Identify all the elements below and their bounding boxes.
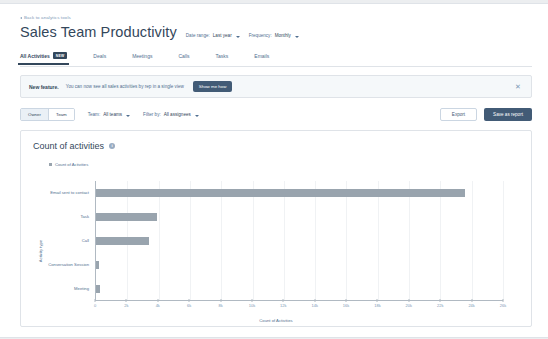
y-tick-label: Conversation Session: [35, 253, 92, 277]
app-page: Back to analytics tools Sales Team Produ…: [0, 3, 548, 338]
x-axis-tick-labels: 02k4k6k8k10k12k14k16k18k20k22k24k26k: [95, 303, 503, 312]
chart-title: Count of activities: [33, 141, 104, 151]
close-icon[interactable]: ✕: [513, 81, 523, 92]
x-axis-line: [95, 300, 503, 301]
x-tick-mark: [95, 299, 96, 302]
bar-row: [96, 229, 503, 253]
chart-legend: Count of Activities: [49, 162, 88, 167]
bar[interactable]: [96, 285, 100, 293]
x-tick-label: 18k: [374, 303, 380, 308]
status-badge: New: [53, 52, 68, 59]
x-tick-label: 12k: [280, 303, 286, 308]
assignee-filter-label: Filter by:: [143, 112, 161, 117]
bar-row: [96, 205, 503, 229]
x-tick-mark: [346, 299, 347, 302]
x-axis-title: Count of Activities: [21, 318, 531, 323]
frequency-value[interactable]: Monthly: [275, 33, 291, 38]
banner-heading: New feature.: [29, 84, 59, 90]
team-filter-label: Team:: [88, 112, 101, 117]
chevron-down-icon: [126, 115, 130, 117]
frequency-control[interactable]: Frequency: Monthly: [249, 33, 299, 38]
y-tick-label: Email sent to contact: [35, 181, 92, 205]
x-tick-mark: [251, 299, 252, 302]
x-tick-label: 2k: [124, 303, 128, 308]
tab-label: Deals: [93, 53, 106, 59]
toggle-option-team[interactable]: Team: [48, 109, 74, 120]
tab-all-activities[interactable]: All Activities New: [20, 52, 67, 64]
tab-emails[interactable]: Emails: [254, 53, 269, 64]
show-me-how-button[interactable]: Show me how: [193, 81, 233, 92]
tab-tasks[interactable]: Tasks: [216, 53, 229, 64]
team-filter-value[interactable]: All teams: [103, 112, 122, 117]
chart-title-row: Count of activities i: [33, 141, 115, 151]
assignee-filter[interactable]: Filter by: All assignees: [143, 112, 199, 117]
x-tick-label: 26k: [500, 303, 506, 308]
x-tick-mark: [314, 299, 315, 302]
info-icon[interactable]: i: [109, 143, 115, 149]
chevron-down-icon: [295, 36, 299, 38]
bar-row: [96, 181, 503, 205]
frequency-label: Frequency:: [249, 33, 272, 38]
title-row: Sales Team Productivity Date range: Last…: [20, 24, 532, 40]
x-tick-label: 14k: [311, 303, 317, 308]
legend-label: Count of Activities: [55, 162, 88, 167]
bar[interactable]: [96, 261, 99, 269]
x-tick-mark: [283, 299, 284, 302]
x-tick-mark: [157, 299, 158, 302]
owner-team-toggle[interactable]: Owner Team: [20, 108, 75, 121]
x-tick-label: 16k: [343, 303, 349, 308]
bar-series: [96, 181, 503, 301]
export-button[interactable]: Export: [440, 108, 477, 122]
x-tick-mark: [220, 299, 221, 302]
tab-label: Emails: [254, 53, 269, 59]
assignee-filter-value[interactable]: All assignees: [164, 112, 191, 117]
bar-row: [96, 277, 503, 301]
tab-label: Calls: [178, 53, 189, 59]
y-tick-label: Task: [35, 205, 92, 229]
tab-calls[interactable]: Calls: [178, 53, 189, 64]
x-tick-mark: [377, 299, 378, 302]
x-tick-label: 22k: [437, 303, 443, 308]
x-tick-label: 8k: [218, 303, 222, 308]
x-tick-mark: [503, 299, 504, 302]
x-tick-label: 0: [94, 303, 96, 308]
bar[interactable]: [96, 237, 149, 245]
team-filter[interactable]: Team: All teams: [88, 112, 130, 117]
tab-label: Tasks: [216, 53, 229, 59]
x-tick-label: 4k: [156, 303, 160, 308]
x-tick-label: 10k: [249, 303, 255, 308]
back-link-label: Back to analytics tools: [24, 15, 71, 20]
plot-canvas: [95, 181, 503, 301]
x-tick-mark: [126, 299, 127, 302]
back-to-analytics-link[interactable]: Back to analytics tools: [20, 15, 71, 20]
tab-meetings[interactable]: Meetings: [132, 53, 152, 64]
tab-label: Meetings: [132, 53, 152, 59]
x-tick-label: 24k: [468, 303, 474, 308]
date-range-control[interactable]: Date range: Last year: [186, 33, 240, 38]
grid-line: [503, 181, 504, 301]
chevron-left-icon: [20, 17, 22, 19]
x-tick-mark: [440, 299, 441, 302]
chevron-down-icon: [236, 36, 240, 38]
bar[interactable]: [96, 189, 465, 197]
tab-deals[interactable]: Deals: [93, 53, 106, 64]
tab-label: All Activities: [20, 53, 50, 59]
filter-toolbar: Owner Team Team: All teams Filter by: Al…: [20, 107, 532, 122]
chart-card: Count of activities i Count of Activitie…: [20, 130, 532, 327]
x-tick-label: 20k: [406, 303, 412, 308]
x-tick-mark: [471, 299, 472, 302]
page-title: Sales Team Productivity: [20, 24, 177, 40]
tab-bar: All Activities New Deals Meetings Calls …: [20, 50, 532, 67]
x-tick-mark: [189, 299, 190, 302]
bar-row: [96, 253, 503, 277]
chart-plot-area: Activity type Email sent to contact Task…: [21, 175, 531, 326]
bar[interactable]: [96, 213, 157, 221]
y-tick-label: Call: [35, 229, 92, 253]
x-tick-label: 6k: [187, 303, 191, 308]
date-range-value[interactable]: Last year: [213, 33, 232, 38]
x-tick-mark: [408, 299, 409, 302]
y-tick-label: Meeting: [35, 277, 92, 301]
date-range-label: Date range:: [186, 33, 210, 38]
save-as-report-button[interactable]: Save as report: [484, 108, 532, 121]
toggle-option-owner[interactable]: Owner: [21, 109, 48, 120]
